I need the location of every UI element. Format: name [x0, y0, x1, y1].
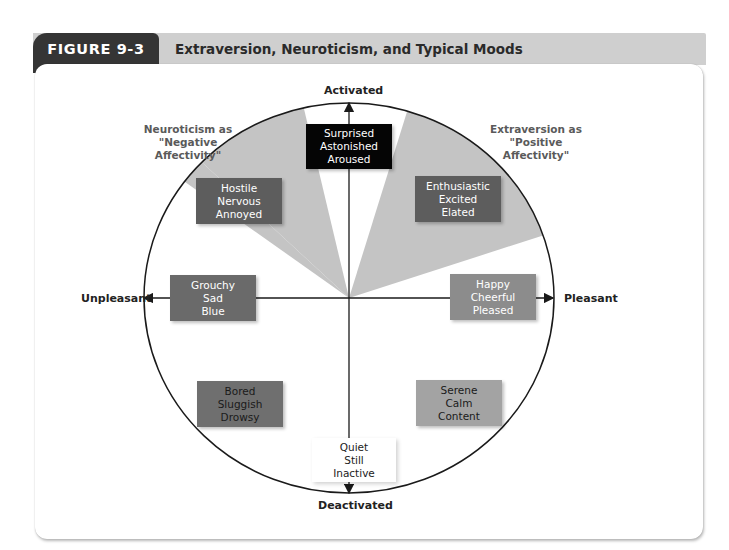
mood-box-quiet: QuietStillInactive	[312, 438, 396, 482]
extraversion-annotation: Extraversion as "Positive Affectivity"	[476, 123, 596, 162]
mood-box-grouchy: GrouchySadBlue	[170, 275, 256, 321]
mood-box-hostile: HostileNervousAnnoyed	[196, 178, 282, 224]
mood-box-bored: BoredSluggishDrowsy	[197, 381, 283, 427]
mood-box-enthusiastic: EnthusiasticExcitedElated	[415, 176, 501, 222]
axis-label-unpleasant: Unpleasant	[81, 292, 151, 305]
neuroticism-annotation: Neuroticism as "Negative Affectivity"	[128, 123, 248, 162]
axis-label-deactivated: Deactivated	[318, 499, 393, 512]
axis-label-activated: Activated	[324, 84, 383, 97]
axis-label-pleasant: Pleasant	[564, 292, 618, 305]
mood-box-happy: HappyCheerfulPleased	[450, 274, 536, 320]
mood-box-surprised: SurprisedAstonishedAroused	[306, 124, 392, 169]
mood-box-serene: SereneCalmContent	[416, 380, 502, 426]
